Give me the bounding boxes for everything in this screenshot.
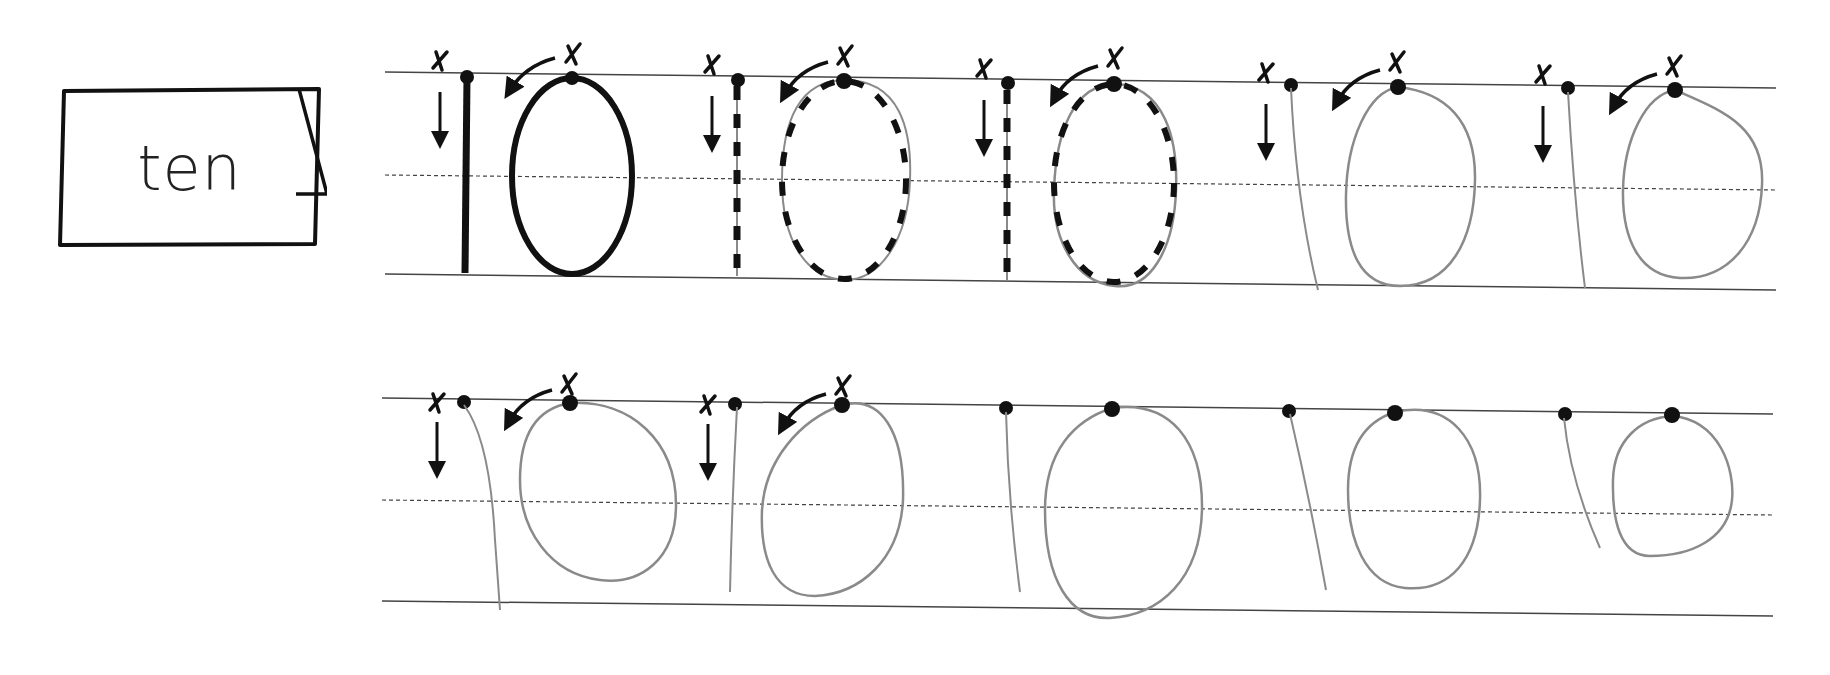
row-1-cell-2-trace-ten — [705, 46, 910, 280]
counterclockwise-arrow-icon — [785, 62, 828, 94]
start-dot-icon — [457, 395, 471, 409]
row-1-cell-5-handwritten-ten — [1536, 56, 1762, 288]
start-dot-icon — [1282, 404, 1296, 418]
start-x-mark-icon — [430, 394, 444, 412]
start-x-mark-icon — [1390, 52, 1404, 72]
pencil-stroke — [1623, 90, 1762, 278]
pencil-stroke — [1291, 88, 1318, 290]
numeral-one-stroke — [465, 77, 467, 273]
start-dot-icon — [731, 73, 745, 87]
row-2-cell-3-handwritten-ten — [999, 401, 1202, 618]
counterclockwise-arrow-icon — [1337, 70, 1380, 102]
numeral-zero-oval — [512, 78, 632, 274]
pencil-stroke — [464, 405, 500, 610]
pencil-stroke — [1045, 407, 1202, 618]
start-dot-icon — [1106, 76, 1122, 92]
row-1-cell-3-trace-ten — [977, 48, 1176, 286]
pencil-stroke — [730, 407, 737, 592]
start-dot-icon — [1387, 405, 1403, 421]
pencil-stroke — [1054, 84, 1176, 286]
start-dot-icon — [1664, 407, 1680, 423]
start-x-mark-icon — [1667, 56, 1681, 76]
row-2-cell-2-handwritten-ten — [701, 376, 903, 596]
start-x-mark-icon — [562, 374, 576, 394]
start-x-mark-icon — [433, 52, 447, 70]
pencil-stroke — [762, 403, 903, 596]
counterclockwise-arrow-icon — [1055, 66, 1098, 98]
start-dot-icon — [728, 397, 742, 411]
start-x-mark-icon — [705, 56, 719, 74]
start-dot-icon — [562, 395, 578, 411]
start-dot-icon — [834, 397, 850, 413]
pencil-stroke — [1290, 414, 1326, 590]
start-x-mark-icon — [1108, 48, 1122, 68]
row-1-cell-1-model-ten — [433, 44, 632, 274]
start-x-mark-icon — [1259, 64, 1273, 82]
start-dot-icon — [1667, 82, 1683, 98]
row-1-midline — [385, 175, 1776, 190]
start-x-mark-icon — [836, 376, 850, 396]
start-dot-icon — [1001, 76, 1015, 90]
counterclockwise-arrow-icon — [1614, 74, 1657, 106]
pencil-stroke — [1564, 418, 1600, 548]
counterclockwise-arrow-icon — [509, 390, 552, 422]
pencil-stroke — [1348, 410, 1480, 588]
start-dot-icon — [1390, 79, 1406, 95]
row-2-midline — [382, 500, 1773, 515]
pencil-stroke — [1568, 92, 1585, 288]
start-x-mark-icon — [701, 396, 715, 414]
start-dot-icon — [836, 73, 852, 89]
pencil-stroke — [520, 403, 676, 581]
handwriting-practice-sheet — [0, 0, 1830, 675]
start-x-mark-icon — [1536, 66, 1550, 84]
start-x-mark-icon — [977, 60, 991, 78]
row-2-cell-4-handwritten-ten — [1282, 404, 1480, 590]
start-dot-icon — [1104, 401, 1120, 417]
row-1-baseline — [385, 274, 1776, 290]
row-2-cell-5-handwritten-ten — [1558, 407, 1732, 556]
pencil-stroke — [1006, 412, 1020, 592]
pencil-stroke — [1613, 416, 1732, 556]
counterclockwise-arrow-icon — [783, 394, 826, 426]
row-2-cell-1-handwritten-ten — [430, 374, 676, 610]
start-x-mark-icon — [838, 46, 852, 66]
start-dot-icon — [565, 71, 579, 85]
row-2-guidelines — [382, 398, 1773, 616]
row-1-cell-4-handwritten-ten — [1259, 52, 1475, 290]
start-x-mark-icon — [566, 44, 580, 64]
